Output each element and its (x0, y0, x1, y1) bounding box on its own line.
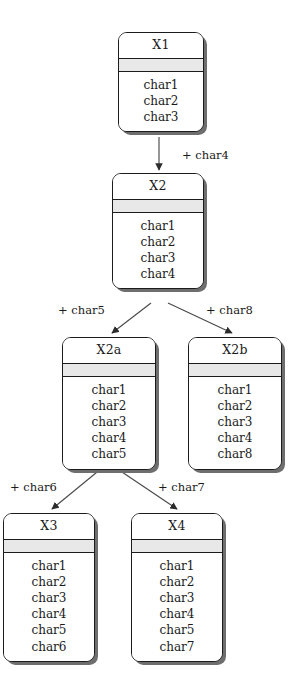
class-attribute-x2a-char3: char3 (63, 414, 155, 430)
class-node-title-x2b: X2b (189, 338, 281, 363)
class-attribute-x2a-char1: char1 (63, 382, 155, 398)
edge-label-char8: + char8 (206, 305, 253, 317)
class-attribute-x2b-char8: char8 (189, 446, 281, 462)
class-attribute-x4-char7: char7 (132, 639, 222, 655)
class-node-attribute-list-x2b: char1char2char3char4char8 (189, 377, 281, 469)
class-attribute-x3-char6: char6 (4, 639, 94, 655)
class-node-title-x4: X4 (132, 514, 222, 539)
edge-label-char6: + char6 (10, 482, 57, 494)
class-node-title-x1: X1 (119, 33, 203, 58)
class-node-separator-band (4, 539, 94, 553)
class-node-separator-band (119, 58, 203, 72)
class-attribute-x2-char2: char2 (113, 234, 203, 250)
class-attribute-x2b-char2: char2 (189, 398, 281, 414)
class-node-separator-band (63, 363, 155, 377)
class-node-x3[interactable]: X3 char1char2char3char4char5char6 (3, 513, 95, 662)
class-attribute-x3-char1: char1 (4, 558, 94, 574)
class-node-x2[interactable]: X2 char1char2char3char4 (112, 173, 204, 289)
class-attribute-x3-char2: char2 (4, 574, 94, 590)
class-attribute-x3-char3: char3 (4, 590, 94, 606)
class-attribute-x3-char5: char5 (4, 622, 94, 638)
class-attribute-x2b-char4: char4 (189, 430, 281, 446)
class-attribute-x4-char3: char3 (132, 590, 222, 606)
class-node-x2a[interactable]: X2a char1char2char3char4char5 (62, 337, 156, 470)
class-attribute-x2a-char2: char2 (63, 398, 155, 414)
class-attribute-x4-char2: char2 (132, 574, 222, 590)
class-attribute-x1-char2: char2 (119, 93, 203, 109)
class-node-attribute-list-x2a: char1char2char3char4char5 (63, 377, 155, 469)
edge-x2-x2a (112, 303, 151, 333)
class-node-title-x2: X2 (113, 174, 203, 199)
class-attribute-x2-char1: char1 (113, 218, 203, 234)
class-node-separator-band (189, 363, 281, 377)
edge-label-char5: + char5 (58, 305, 105, 317)
class-attribute-x2a-char5: char5 (63, 446, 155, 462)
class-node-attribute-list-x4: char1char2char3char4char5char7 (132, 553, 222, 661)
class-attribute-x3-char4: char4 (4, 606, 94, 622)
class-node-x4[interactable]: X4 char1char2char3char4char5char7 (131, 513, 223, 662)
class-node-separator-band (113, 199, 203, 213)
class-attribute-x1-char1: char1 (119, 77, 203, 93)
edge-label-char4: + char4 (182, 150, 229, 162)
class-node-title-x3: X3 (4, 514, 94, 539)
class-attribute-x1-char3: char3 (119, 109, 203, 125)
class-node-x2b[interactable]: X2b char1char2char3char4char8 (188, 337, 282, 470)
edge-x2a-x3 (52, 468, 102, 509)
edge-label-char7: + char7 (158, 482, 205, 494)
class-attribute-x4-char4: char4 (132, 606, 222, 622)
class-attribute-x2-char4: char4 (113, 266, 203, 282)
class-diagram: + char4+ char5+ char8+ char6+ char7 X1 c… (0, 0, 308, 693)
class-attribute-x2b-char1: char1 (189, 382, 281, 398)
class-node-separator-band (132, 539, 222, 553)
class-attribute-x2b-char3: char3 (189, 414, 281, 430)
class-node-attribute-list-x1: char1char2char3 (119, 72, 203, 132)
class-node-title-x2a: X2a (63, 338, 155, 363)
class-node-attribute-list-x2: char1char2char3char4 (113, 213, 203, 289)
class-attribute-x2a-char4: char4 (63, 430, 155, 446)
class-attribute-x4-char1: char1 (132, 558, 222, 574)
class-attribute-x4-char5: char5 (132, 622, 222, 638)
class-node-x1[interactable]: X1 char1char2char3 (118, 32, 204, 132)
class-attribute-x2-char3: char3 (113, 250, 203, 266)
class-node-attribute-list-x3: char1char2char3char4char5char6 (4, 553, 94, 661)
